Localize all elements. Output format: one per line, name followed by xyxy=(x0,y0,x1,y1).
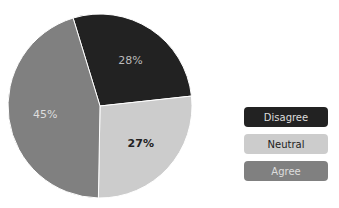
legend-item-agree: Agree xyxy=(244,161,328,181)
slice-label-agree: 45% xyxy=(33,107,57,120)
legend: Disagree Neutral Agree xyxy=(244,107,328,188)
legend-item-disagree: Disagree xyxy=(244,107,328,127)
legend-item-neutral: Neutral xyxy=(244,134,328,154)
pie-chart xyxy=(0,0,200,208)
slice-label-neutral: 27% xyxy=(128,137,154,150)
slice-label-disagree: 28% xyxy=(118,53,142,66)
